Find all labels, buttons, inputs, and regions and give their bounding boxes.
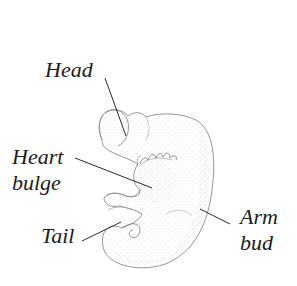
embryo-body xyxy=(99,110,213,268)
embryo-diagram: Head Heart bulge Tail Arm bud xyxy=(0,0,297,286)
label-tail: Tail xyxy=(41,225,74,247)
label-heart-bulge-line2: bulge xyxy=(12,172,61,194)
label-arm-bud-line2: bud xyxy=(240,232,273,254)
label-arm-bud-line1: Arm xyxy=(240,206,278,228)
label-head: Head xyxy=(45,59,93,81)
label-heart-bulge-line1: Heart xyxy=(12,146,63,168)
